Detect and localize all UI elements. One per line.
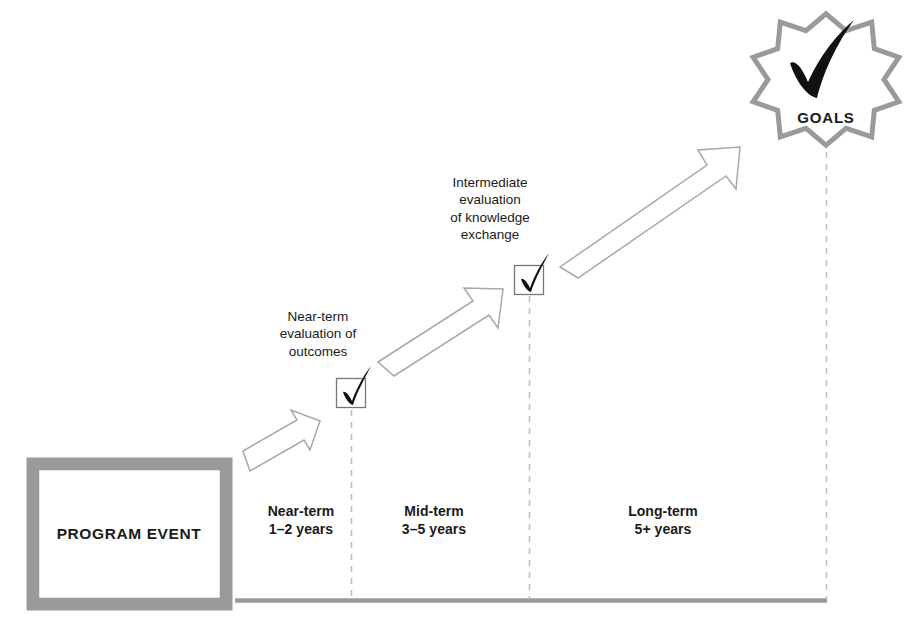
phase-name: Mid-term [404,503,464,519]
milestone-line: of knowledge [450,210,530,225]
phase-label-near-term: Near-term 1–2 years [246,503,356,539]
milestone-label-near-term: Near-term evaluation of outcomes [254,308,382,360]
arrow-mid [378,288,503,376]
diagram-canvas: PROGRAM EVENT Near-term evaluation of ou… [0,0,908,630]
arrow-long [560,147,740,278]
phase-duration: 5+ years [635,521,692,537]
checkbox-near-term-evaluation[interactable] [337,366,372,408]
milestone-line: evaluation [459,192,521,207]
phase-duration: 3–5 years [402,521,466,537]
milestone-label-intermediate: Intermediate evaluation of knowledge exc… [418,174,562,243]
milestone-line: Intermediate [452,175,527,190]
phase-duration: 1–2 years [269,521,333,537]
program-event-label: PROGRAM EVENT [49,524,209,544]
milestone-line: outcomes [289,344,348,359]
checkbox-intermediate-evaluation[interactable] [515,253,550,295]
phase-label-long-term: Long-term 5+ years [588,503,738,539]
phase-label-mid-term: Mid-term 3–5 years [378,503,490,539]
phase-name: Long-term [628,503,698,519]
milestone-line: Near-term [288,309,349,324]
phase-name: Near-term [268,503,335,519]
milestone-line: exchange [461,227,520,242]
arrow-near [243,410,320,471]
goals-label: GOALS [776,108,876,127]
milestone-line: evaluation of [280,326,357,341]
